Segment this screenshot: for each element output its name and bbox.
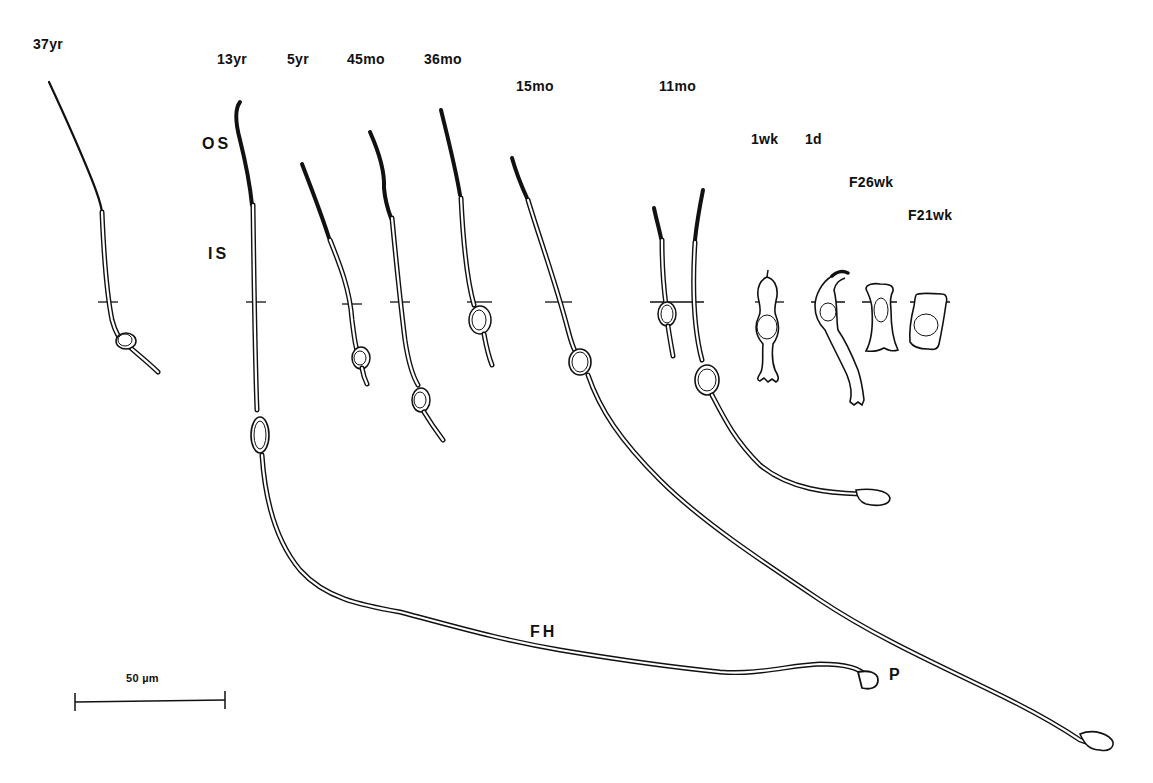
- cell-5yr: [302, 164, 370, 384]
- cell-1wk: [756, 270, 778, 382]
- cell-1d: [815, 272, 864, 405]
- cell-F26wk: [866, 284, 898, 352]
- scale-bar: [75, 691, 225, 711]
- cell-45mo: [370, 132, 443, 440]
- cell-37yr: [49, 82, 158, 372]
- photoreceptor-drawing: [0, 0, 1153, 783]
- cell-F21wk: [910, 293, 947, 349]
- cell-15mo: [512, 158, 1113, 751]
- cell-13yr: [236, 102, 878, 689]
- cell-36mo: [441, 110, 492, 365]
